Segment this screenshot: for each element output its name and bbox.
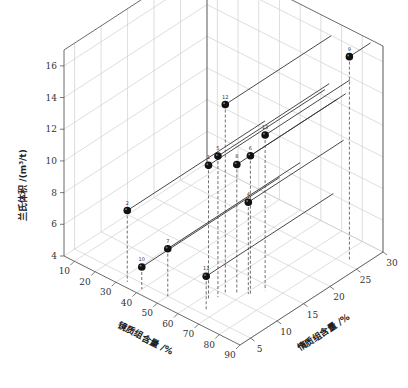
data-point-4 (245, 198, 253, 206)
point-label: 8 (235, 153, 238, 159)
y-tick-label: 30 (386, 258, 398, 268)
data-point-1 (205, 162, 213, 170)
data-point-12 (222, 101, 230, 109)
data-point-10 (138, 263, 146, 271)
point-label: 2 (126, 200, 129, 206)
point-label: 12 (222, 94, 228, 100)
data-point-7 (164, 245, 172, 253)
point-label: 7 (166, 238, 169, 244)
z-tick-label: 10 (46, 156, 58, 166)
data-point-9 (346, 53, 354, 61)
scatter-3d-chart: 4681012141610203040506070809051015202530… (0, 0, 408, 388)
y-axis-label: 惰质组含量 /% (295, 311, 352, 353)
y-tick-label: 5 (257, 344, 263, 354)
z-tick-label: 4 (51, 251, 57, 261)
data-point-6 (247, 152, 255, 160)
data-point-13 (261, 131, 269, 139)
data-point-8 (233, 161, 241, 169)
point-label: 10 (139, 256, 145, 262)
y-tick-label: 15 (307, 310, 319, 320)
y-tick-label: 10 (280, 327, 292, 337)
x-tick-label: 50 (141, 308, 153, 318)
point-label: 6 (249, 145, 252, 151)
x-tick-label: 60 (162, 319, 174, 329)
data-point-5 (214, 152, 222, 160)
x-tick-label: 30 (100, 287, 112, 297)
x-tick-label: 20 (79, 277, 91, 287)
point-label: 11 (203, 265, 209, 271)
z-tick-label: 6 (51, 219, 57, 229)
x-tick-label: 10 (59, 266, 71, 276)
data-point-2 (123, 207, 131, 215)
z-tick-label: 12 (46, 124, 57, 134)
z-axis-label: 兰氏体积 /(m³/t) (17, 149, 28, 221)
y-tick-label: 20 (333, 292, 345, 302)
x-tick-label: 40 (121, 298, 133, 308)
point-label: 13 (262, 124, 268, 130)
x-tick-label: 80 (204, 340, 216, 350)
point-label: 9 (348, 46, 351, 52)
z-tick-label: 8 (51, 188, 57, 198)
y-tick-label: 25 (360, 275, 372, 285)
point-label: 5 (216, 145, 219, 151)
x-tick-label: 70 (183, 329, 195, 339)
point-label: 4 (247, 191, 250, 197)
point-label: 1 (207, 154, 210, 160)
x-tick-label: 90 (224, 350, 236, 360)
data-point-11 (202, 272, 210, 280)
z-tick-label: 14 (46, 93, 58, 103)
z-tick-label: 16 (46, 61, 58, 71)
